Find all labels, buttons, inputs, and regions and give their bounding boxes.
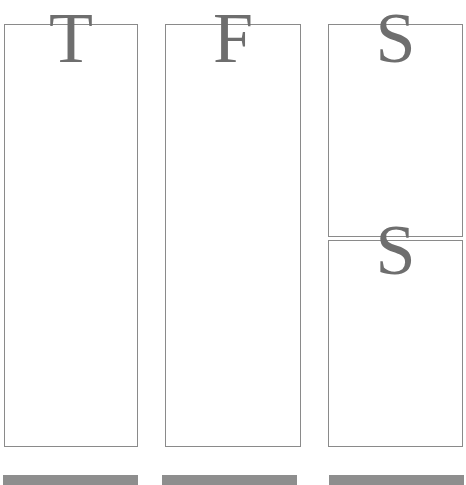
- column-f-letter: F: [165, 2, 301, 74]
- column-s-bar: [329, 475, 464, 485]
- column-t-bar: [3, 475, 138, 485]
- column-f-box: [165, 24, 301, 447]
- column-t-letter: T: [4, 2, 138, 74]
- column-f-bar: [162, 475, 297, 485]
- column-s-bottom-letter: S: [328, 214, 463, 286]
- column-t-box: [4, 24, 138, 447]
- column-s-top-letter: S: [328, 2, 463, 74]
